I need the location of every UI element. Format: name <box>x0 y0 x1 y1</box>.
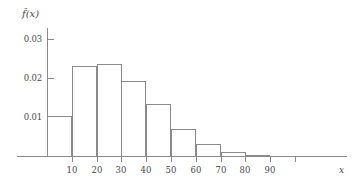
x-tick-label: 60 <box>184 166 208 175</box>
x-tick-mark <box>121 157 122 162</box>
x-tick-mark <box>196 157 197 162</box>
histogram-figure: f̂(x) x 0.010.020.03 102030405060708090 <box>0 0 363 190</box>
histogram-bar <box>196 144 221 156</box>
x-tick-label: 50 <box>159 166 183 175</box>
y-tick-mark <box>48 78 54 79</box>
x-tick-mark <box>221 157 222 162</box>
histogram-bar <box>221 152 246 156</box>
x-tick-label: 90 <box>258 166 282 175</box>
histogram-bar <box>97 64 122 156</box>
x-tick-label: 80 <box>233 166 257 175</box>
y-tick-label: 0.03 <box>8 35 42 44</box>
histogram-bar <box>121 81 146 156</box>
y-tick-label: 0.01 <box>8 113 42 122</box>
y-tick-label: 0.02 <box>8 74 42 83</box>
x-tick-mark <box>97 157 98 162</box>
histogram-bar <box>146 104 171 156</box>
x-tick-label: 70 <box>209 166 233 175</box>
x-tick-mark <box>270 157 271 162</box>
histogram-bar <box>47 116 72 156</box>
x-tick-label: 20 <box>85 166 109 175</box>
histogram-bar <box>171 129 196 156</box>
x-tick-mark <box>72 157 73 162</box>
x-axis-line <box>17 156 347 157</box>
y-axis-label: f̂(x) <box>22 8 39 19</box>
histogram-bar <box>245 155 270 156</box>
y-tick-mark <box>48 39 54 40</box>
x-tick-label: 10 <box>60 166 84 175</box>
x-tick-mark <box>171 157 172 162</box>
x-axis-label: x <box>339 166 344 175</box>
x-tick-label: 30 <box>109 166 133 175</box>
x-tick-mark <box>146 157 147 162</box>
histogram-bar <box>72 66 97 156</box>
x-tick-mark <box>295 157 296 162</box>
x-tick-mark <box>245 157 246 162</box>
x-tick-label: 40 <box>134 166 158 175</box>
